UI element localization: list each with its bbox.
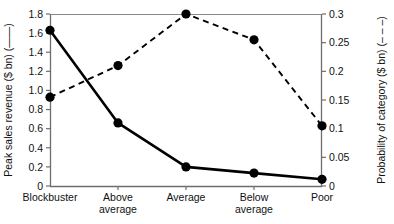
x-category-label: Poor <box>311 191 334 203</box>
right-tick-label: 0.3 <box>329 8 344 20</box>
left-tick-label: 0.4 <box>28 142 43 154</box>
x-category-label: Belowaverage <box>235 191 273 215</box>
x-category-label: Average <box>167 191 206 203</box>
data-point-marker <box>45 26 54 35</box>
data-point-marker <box>113 118 122 127</box>
left-tick-label: 1.2 <box>28 65 43 77</box>
left-tick-label: 1.0 <box>28 84 43 96</box>
data-point-marker <box>249 169 258 178</box>
line-chart: 00.20.40.60.81.01.21.41.61.8 00.050.10.1… <box>0 0 394 224</box>
data-point-marker <box>249 35 258 44</box>
left-tick-label: 1.8 <box>28 8 43 20</box>
chart-container: 00.20.40.60.81.01.21.41.61.8 00.050.10.1… <box>0 0 394 224</box>
data-point-marker <box>113 61 122 70</box>
left-tick-label: 0.2 <box>28 161 43 173</box>
right-axis-title: Probability of category ($ bn) (– – –) <box>375 16 387 184</box>
x-category-label: Aboveaverage <box>99 191 137 215</box>
x-category-label: Blockbuster <box>23 191 78 203</box>
data-point-marker <box>45 93 54 102</box>
left-tick-label: 1.6 <box>28 27 43 39</box>
right-tick-label: 0.2 <box>329 65 344 77</box>
left-tick-label: 0.8 <box>28 103 43 115</box>
right-tick-label: 0.1 <box>329 122 344 134</box>
data-point-marker <box>317 175 326 184</box>
right-tick-label: 0.05 <box>329 151 350 163</box>
right-tick-label: 0 <box>329 180 335 192</box>
right-tick-label: 0.15 <box>329 94 350 106</box>
data-point-marker <box>181 162 190 171</box>
data-point-marker <box>317 121 326 130</box>
left-axis-title: Peak sales revenue ($ bn) (——) <box>2 23 14 176</box>
left-tick-label: 0.6 <box>28 122 43 134</box>
right-tick-label: 0.25 <box>329 36 350 48</box>
data-point-marker <box>181 9 190 18</box>
left-tick-label: 1.4 <box>28 46 43 58</box>
left-tick-label: 0 <box>37 180 43 192</box>
